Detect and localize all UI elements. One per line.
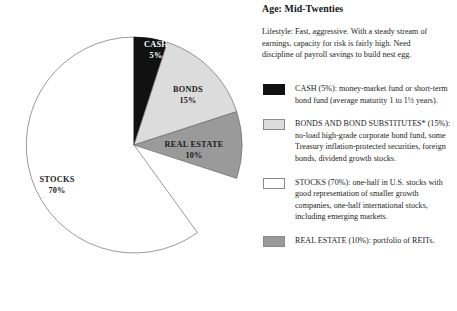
pie-label-real-estate-name: REAL ESTATE — [165, 140, 224, 149]
pie-chart-figure: CASH 5% BONDS 15% REAL ESTATE 10% STOCKS… — [0, 0, 248, 311]
pie-label-real-estate-percent: 10% — [156, 151, 232, 162]
legend-label-bonds: BONDS AND BOND SUBSTITUTES* (15%): no-lo… — [295, 118, 457, 164]
lifestyle-paragraph: Lifestyle: Fast, aggressive. With a stea… — [262, 26, 434, 61]
pie-label-bonds-percent: 15% — [160, 96, 216, 107]
legend-label-real-estate: REAL ESTATE (10%): portfolio of REITs. — [295, 235, 457, 247]
legend-item-bonds: BONDS AND BOND SUBSTITUTES* (15%): no-lo… — [262, 118, 457, 164]
pie-label-real-estate: REAL ESTATE 10% — [156, 140, 232, 161]
pie-label-cash-percent: 5% — [133, 51, 179, 62]
legend-item-cash: CASH (5%): money-market fund or short-te… — [262, 83, 457, 106]
legend-swatch-real-estate — [263, 236, 285, 247]
legend-swatch-stocks — [263, 178, 285, 189]
pie-label-cash: CASH 5% — [133, 40, 179, 61]
pie-label-stocks: STOCKS 70% — [25, 175, 89, 196]
pie-label-bonds: BONDS 15% — [160, 85, 216, 106]
pie-label-bonds-name: BONDS — [173, 85, 203, 94]
legend-swatch-cash — [263, 84, 285, 95]
pie-label-stocks-name: STOCKS — [39, 175, 74, 184]
legend-item-stocks: STOCKS (70%): one-half in U.S. stocks wi… — [262, 177, 457, 223]
panel-title: Age: Mid-Twenties — [262, 3, 343, 14]
pie-label-stocks-percent: 70% — [25, 186, 89, 197]
legend: CASH (5%): money-market fund or short-te… — [262, 83, 457, 261]
legend-item-real-estate: REAL ESTATE (10%): portfolio of REITs. — [262, 235, 457, 249]
legend-swatch-bonds — [263, 119, 285, 130]
pie-label-cash-name: CASH — [144, 40, 168, 49]
legend-label-cash: CASH (5%): money-market fund or short-te… — [295, 83, 457, 106]
legend-label-stocks: STOCKS (70%): one-half in U.S. stocks wi… — [295, 177, 457, 223]
description-column: Age: Mid-Twenties Lifestyle: Fast, aggre… — [262, 0, 457, 311]
